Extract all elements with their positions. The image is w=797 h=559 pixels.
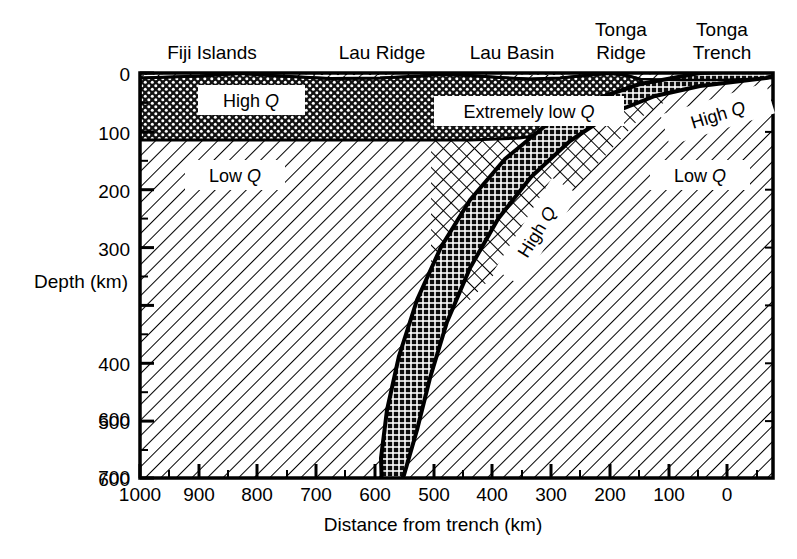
low-q-prefix-1: Low	[209, 166, 247, 186]
x-tick-label-200: 200	[594, 484, 626, 505]
x-axis-title: Distance from trench (km)	[324, 514, 543, 535]
svg-text:Low Q: Low Q	[209, 166, 261, 186]
figure-root: 0 100 200 300 400 500 600 Depth (km) 100…	[0, 0, 797, 559]
x-tick-label-700: 700	[300, 484, 332, 505]
x-tick-labels: 1000 900 800 700 600 500 400 300 200 100…	[119, 484, 732, 505]
x-tick-label-400: 400	[476, 484, 508, 505]
q-symbol-4: Q	[712, 166, 726, 186]
x-tick-label-900: 900	[183, 484, 215, 505]
annotation-low-q-east: Low Q	[650, 160, 750, 190]
low-q-prefix-2: Low	[674, 166, 712, 186]
x-tick-label-0: 0	[722, 484, 733, 505]
label-tonga-ridge-line2: Ridge	[596, 42, 646, 63]
y-tick-label-500: 500	[98, 412, 130, 433]
q-symbol-2: Q	[581, 102, 595, 122]
svg-text:Extremely low Q: Extremely low Q	[463, 102, 594, 122]
x-tick-label-100: 100	[653, 484, 685, 505]
y-tick-label-200: 200	[98, 181, 130, 202]
seismic-attenuation-cross-section: 0 100 200 300 400 500 600 Depth (km) 100…	[0, 0, 797, 559]
label-lau-ridge: Lau Ridge	[339, 42, 426, 63]
svg-text:High Q: High Q	[223, 91, 279, 111]
label-tonga-trench-line1: Tonga	[696, 19, 748, 40]
x-tick-label-600: 600	[359, 484, 391, 505]
annotation-extremely-low-q: Extremely low Q	[434, 96, 624, 126]
label-fiji-islands: Fiji Islands	[167, 42, 257, 63]
surface-feature-labels: Fiji Islands Lau Ridge Lau Basin Tonga R…	[167, 19, 751, 63]
annotation-low-q-west: Low Q	[185, 160, 285, 190]
y-tick-label-400: 400	[98, 354, 130, 375]
svg-text:Low Q: Low Q	[674, 166, 726, 186]
label-tonga-trench-line2: Trench	[693, 42, 751, 63]
y-tick-label-0: 0	[119, 64, 130, 85]
y-tick-label-100: 100	[98, 123, 130, 144]
y-tick-label-300: 300	[98, 239, 130, 260]
x-tick-label-800: 800	[241, 484, 273, 505]
q-symbol-1: Q	[265, 91, 279, 111]
label-tonga-ridge-line1: Tonga	[595, 19, 647, 40]
x-tick-label-1000: 1000	[119, 484, 161, 505]
label-lau-basin: Lau Basin	[470, 42, 555, 63]
high-q-prefix-1: High	[223, 91, 265, 111]
extremely-low-q-prefix: Extremely low	[463, 102, 580, 122]
q-symbol-3: Q	[247, 166, 261, 186]
x-tick-label-300: 300	[535, 484, 567, 505]
annotation-high-q-lithosphere: High Q	[198, 85, 305, 115]
x-tick-label-500: 500	[418, 484, 450, 505]
y-axis-title: Depth (km)	[34, 271, 128, 292]
